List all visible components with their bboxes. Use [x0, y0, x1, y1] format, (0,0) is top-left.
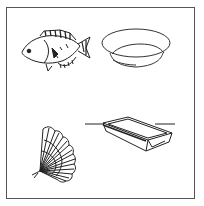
fan-icon — [32, 127, 75, 182]
bowl-icon — [102, 29, 170, 67]
tray-icon — [85, 117, 175, 151]
fish-icon — [22, 30, 90, 71]
illustration-canvas — [0, 0, 204, 206]
